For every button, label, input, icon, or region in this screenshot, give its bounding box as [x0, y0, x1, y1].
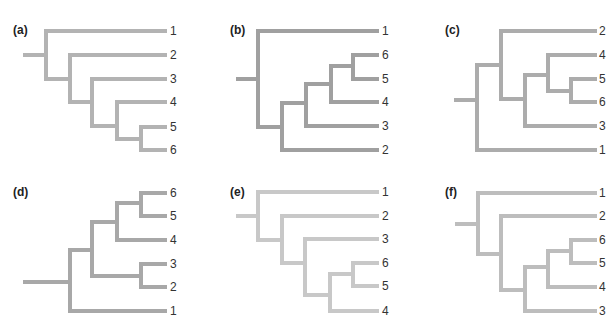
panel-label-a: (a) — [13, 23, 28, 37]
leaf-label: 5 — [599, 256, 606, 270]
leaf-label: 1 — [599, 186, 606, 200]
leaf-labels-d: 6 5 4 3 2 1 — [170, 186, 177, 318]
leaf-label: 6 — [599, 95, 606, 109]
leaf-label: 5 — [170, 209, 177, 223]
leaf-label: 5 — [170, 120, 177, 134]
panel-label-b: (b) — [230, 23, 245, 37]
tree-figure: (a) 1 2 3 4 5 6 (b) 1 6 5 4 3 2 — [0, 0, 616, 330]
leaf-label: 5 — [382, 72, 389, 86]
leaf-labels-f: 1 2 6 5 4 3 — [599, 186, 606, 318]
leaf-label: 2 — [170, 48, 177, 62]
leaf-label: 1 — [382, 185, 389, 199]
leaf-label: 5 — [599, 72, 606, 86]
leaf-label: 3 — [599, 304, 606, 318]
leaf-label: 4 — [599, 48, 606, 62]
panel-label-e: (e) — [230, 185, 245, 199]
leaf-label: 6 — [170, 186, 177, 200]
leaf-label: 4 — [170, 95, 177, 109]
leaf-label: 3 — [170, 72, 177, 86]
leaf-labels-c: 2 4 5 6 3 1 — [599, 24, 606, 157]
leaf-label: 3 — [382, 232, 389, 246]
leaf-label: 6 — [599, 233, 606, 247]
panel-label-d: (d) — [13, 185, 28, 199]
tree-panel-c — [456, 31, 595, 150]
leaf-labels-a: 1 2 3 4 5 6 — [170, 24, 177, 157]
leaf-label: 6 — [382, 48, 389, 62]
leaf-label: 1 — [170, 304, 177, 318]
tree-panel-d — [25, 193, 165, 311]
panel-label-c: (c) — [445, 23, 460, 37]
leaf-label: 1 — [599, 143, 606, 157]
leaf-label: 5 — [382, 279, 389, 293]
leaf-label: 1 — [382, 24, 389, 38]
leaf-label: 2 — [382, 143, 389, 157]
leaf-label: 4 — [599, 280, 606, 294]
leaf-label: 3 — [382, 119, 389, 133]
leaf-label: 1 — [170, 24, 177, 38]
tree-panel-f — [457, 193, 595, 311]
leaf-label: 3 — [170, 257, 177, 271]
leaf-label: 4 — [382, 95, 389, 109]
leaf-label: 2 — [382, 209, 389, 223]
leaf-label: 2 — [599, 209, 606, 223]
leaf-label: 3 — [599, 119, 606, 133]
leaf-label: 4 — [170, 233, 177, 247]
tree-panel-b — [238, 31, 377, 150]
tree-panel-a — [25, 31, 165, 150]
leaf-label: 6 — [170, 143, 177, 157]
leaf-label: 6 — [382, 256, 389, 270]
leaf-label: 2 — [599, 24, 606, 38]
leaf-labels-e: 1 2 3 6 5 4 — [382, 185, 389, 318]
leaf-label: 2 — [170, 280, 177, 294]
leaf-label: 4 — [382, 304, 389, 318]
leaf-labels-b: 1 6 5 4 3 2 — [382, 24, 389, 157]
figure-caption-fragment — [0, 318, 300, 330]
panel-label-f: (f) — [445, 185, 457, 199]
tree-panel-e — [238, 192, 377, 311]
